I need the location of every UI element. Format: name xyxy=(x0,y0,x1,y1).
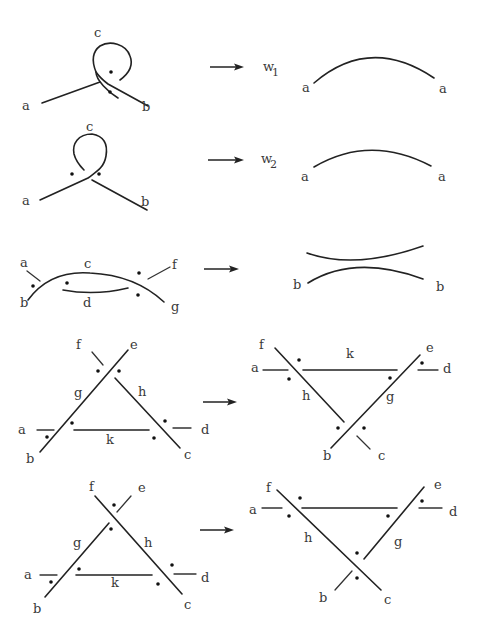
row2-arrow xyxy=(208,157,244,164)
row1-dot-lower xyxy=(108,90,112,94)
row3-label-a: a xyxy=(20,255,28,270)
row5-dot-3 xyxy=(77,567,81,571)
row2-dot-right xyxy=(97,172,101,176)
row1-right-label-right: a xyxy=(439,81,447,96)
row2-arc xyxy=(314,150,431,167)
row4-label-e: e xyxy=(130,337,138,352)
row5r-dot-6 xyxy=(355,576,359,580)
row4r-label-h: h xyxy=(302,388,311,403)
row4r-label-f: f xyxy=(259,337,265,352)
row3-left-tangle: a b c d f g xyxy=(20,255,179,314)
row5r-dot-3 xyxy=(386,514,390,518)
row4r-dot-6 xyxy=(362,426,366,430)
row3-right-curves: b b xyxy=(293,246,444,294)
row2-over-strand xyxy=(40,134,106,200)
row5r-segment-b xyxy=(335,571,352,590)
row5-arrow xyxy=(200,527,234,534)
row3-segment-a xyxy=(27,271,40,281)
row5r-label-g: g xyxy=(394,534,402,549)
row3-dot-d xyxy=(65,281,69,285)
row1-left-kink: a b c xyxy=(22,25,150,114)
row2-label-a: a xyxy=(22,193,30,208)
row3-label-b: b xyxy=(20,295,28,310)
knot-moves-diagram: a b c w 1 a a a b c w 2 a a xyxy=(0,0,480,636)
row2-right-label-right: a xyxy=(438,169,446,184)
row5-strand-h xyxy=(95,496,182,594)
row5-label-h: h xyxy=(144,535,153,550)
row1-dot-upper xyxy=(109,70,113,74)
row5-label-d: d xyxy=(201,570,209,585)
row4r-label-b: b xyxy=(323,448,331,463)
row5r-label-h: h xyxy=(304,530,313,545)
row5r-dot-5 xyxy=(355,551,359,555)
row3-lower-curve xyxy=(308,267,423,283)
row5-label-b: b xyxy=(33,601,41,616)
row5-label-c: c xyxy=(184,597,191,612)
row5r-strand-h xyxy=(277,490,381,590)
row1-strand-b xyxy=(96,72,148,106)
row5r-label-c: c xyxy=(384,592,391,607)
row4-label-a: a xyxy=(18,422,26,437)
row4-label-f: f xyxy=(76,337,82,352)
row4r-label-g: g xyxy=(386,389,394,404)
row4-strand-h xyxy=(115,378,180,448)
row2-right-arc: a a xyxy=(301,150,446,184)
row3-right-label-right: b xyxy=(436,279,444,294)
row5-dot-4 xyxy=(49,580,53,584)
row5-right-triangle: f e a d h g b c xyxy=(249,477,457,607)
row4-label-d: d xyxy=(201,422,209,437)
row2-label-b: b xyxy=(141,194,149,209)
row5-segment-e xyxy=(117,496,131,512)
row1-arrow xyxy=(210,64,244,71)
row4r-dot-3 xyxy=(388,376,392,380)
row4r-label-e: e xyxy=(426,340,434,355)
row3-arc-d xyxy=(63,288,128,293)
row1-weight-index: 1 xyxy=(272,66,279,79)
row5r-label-a: a xyxy=(249,502,257,517)
row5r-dot-1 xyxy=(298,496,302,500)
row3-label-c: c xyxy=(84,256,91,271)
row2-left-kink: a b c xyxy=(22,119,149,210)
row1-label-a: a xyxy=(22,98,30,113)
row4r-label-c: c xyxy=(378,448,385,463)
row3-label-g: g xyxy=(171,299,179,314)
row1-label-c: c xyxy=(94,25,101,40)
row5r-label-f: f xyxy=(266,480,272,495)
row4-label-k: k xyxy=(106,432,114,447)
row3-dot-g xyxy=(136,293,140,297)
row4-label-c: c xyxy=(184,447,191,462)
row1-loop xyxy=(93,43,131,98)
row5-left-triangle: f e g h a b k d c xyxy=(24,479,209,616)
row5r-label-e: e xyxy=(434,477,442,492)
row5-label-a: a xyxy=(24,567,32,582)
row5r-dot-4 xyxy=(420,499,424,503)
row4r-label-d: d xyxy=(443,361,451,376)
row4-dot-1 xyxy=(96,369,100,373)
row5-label-e: e xyxy=(138,480,146,495)
row3-upper-curve xyxy=(307,246,423,260)
row5-dot-6 xyxy=(156,582,160,586)
row1-label-b: b xyxy=(142,99,150,114)
row3-dot-f xyxy=(137,271,141,275)
row5-label-f: f xyxy=(89,479,95,494)
row4r-segment-c xyxy=(357,436,370,449)
row3-right-label-left: b xyxy=(293,277,301,292)
row3-dot-a xyxy=(31,284,35,288)
row4-right-triangle: f a k e d h g b c xyxy=(251,337,451,463)
row4-dot-6 xyxy=(152,436,156,440)
row1-strand-a xyxy=(42,82,100,103)
row4r-dot-1 xyxy=(297,358,301,362)
row2-label-c: c xyxy=(86,119,93,134)
row4-dot-2 xyxy=(117,369,121,373)
row5r-dot-2 xyxy=(287,514,291,518)
row5r-label-d: d xyxy=(449,504,457,519)
row2-under-strand-b xyxy=(92,180,147,210)
row4r-label-a: a xyxy=(251,360,259,375)
row4r-strand-g xyxy=(331,355,420,448)
row5-label-k: k xyxy=(111,575,119,590)
row5-dot-5 xyxy=(170,563,174,567)
row1-right-label-left: a xyxy=(302,80,310,95)
row3-label-f: f xyxy=(172,257,178,272)
row4-label-h: h xyxy=(138,384,147,399)
row4-dot-4 xyxy=(45,435,49,439)
